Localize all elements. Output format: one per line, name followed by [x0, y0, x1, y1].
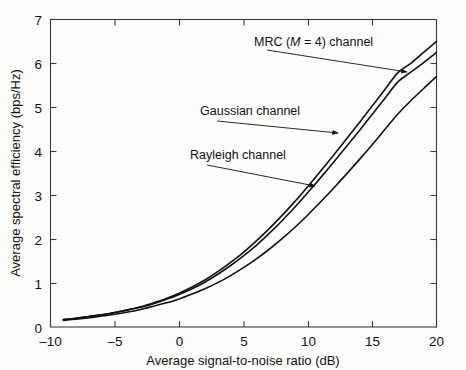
- mrc-channel-label: MRC (M = 4) channel: [254, 35, 373, 49]
- y-tick-3: 3: [34, 189, 42, 204]
- x-tick-labels: –10 –5 0 5 10 15 20: [39, 334, 444, 349]
- curve-gaussian-line: [63, 52, 436, 319]
- y-tick-2: 2: [34, 233, 42, 248]
- plot-frame: [51, 20, 437, 328]
- x-tickmarks-top: [115, 20, 373, 26]
- x-tick-10: 10: [301, 334, 316, 349]
- x-tick-0: 0: [176, 334, 184, 349]
- spectral-efficiency-chart: 7 6 5 4 3 2 1 0 –10 –5 0 5 10 15 20 Aver…: [0, 0, 466, 370]
- mrc-prefix-text: MRC (: [254, 35, 291, 49]
- y-tickmarks: [51, 20, 57, 284]
- y-tick-6: 6: [34, 57, 42, 72]
- y-tick-4: 4: [34, 145, 42, 160]
- x-tick-neg5: –5: [107, 334, 122, 349]
- y-tickmarks-right: [431, 64, 437, 284]
- x-tick-5: 5: [240, 334, 248, 349]
- mrc-leader-line: [267, 50, 407, 72]
- mrc-italic-m: M: [290, 35, 301, 49]
- y-tick-labels: 7 6 5 4 3 2 1 0: [34, 13, 42, 336]
- y-axis-title: Average spectral efficiency (bps/Hz): [8, 69, 23, 277]
- curve-mrc-line: [63, 41, 436, 319]
- y-tick-7: 7: [34, 13, 42, 28]
- curve-group: [63, 41, 436, 320]
- x-axis-title: Average signal-to-noise ratio (dB): [146, 353, 339, 368]
- x-tick-neg10: –10: [39, 334, 62, 349]
- x-tickmarks: [51, 321, 437, 327]
- rayleigh-leader-line: [207, 165, 315, 186]
- rayleigh-channel-label: Rayleigh channel: [190, 148, 286, 162]
- gaussian-channel-label: Gaussian channel: [200, 104, 300, 118]
- mrc-suffix-text: = 4) channel: [301, 35, 374, 49]
- x-tick-15: 15: [365, 334, 380, 349]
- gaussian-leader-line: [217, 121, 338, 133]
- y-tick-1: 1: [34, 277, 42, 292]
- x-tick-20: 20: [429, 334, 444, 349]
- y-tick-5: 5: [34, 101, 42, 116]
- chart-figure: 7 6 5 4 3 2 1 0 –10 –5 0 5 10 15 20 Aver…: [0, 0, 466, 370]
